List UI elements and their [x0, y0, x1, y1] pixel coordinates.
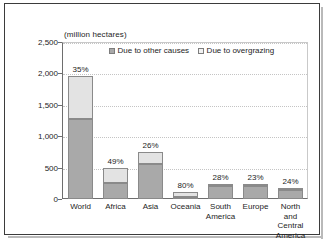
legend-swatch-overgrazing	[198, 48, 204, 54]
bar-segment-overgrazing	[138, 152, 163, 165]
y-tick-mark	[58, 105, 62, 106]
y-axis: 05001,0001,5002,0002,500	[21, 42, 58, 199]
x-tick-label: Europe	[243, 202, 269, 212]
y-tick-mark	[58, 168, 62, 169]
x-tick-label: World	[70, 202, 91, 212]
bar-segment-other-causes	[138, 164, 163, 199]
legend-label: Due to overgrazing	[207, 46, 275, 55]
x-tick-label: South America	[206, 202, 235, 221]
bar-segment-other-causes	[208, 186, 233, 199]
chart-legend: Due to other causesDue to overgrazing	[109, 46, 274, 55]
figure-shadow-right	[321, 7, 323, 239]
y-tick-label: 500	[45, 163, 58, 172]
bar-segment-overgrazing	[278, 188, 303, 190]
legend-swatch-other	[109, 48, 115, 54]
x-tick-label: North and Central America	[276, 202, 305, 240]
figure-frame: (million hectares) 05001,0001,5002,0002,…	[4, 3, 320, 235]
x-axis: WorldAfricaAsiaOceaniaSouth AmericaEurop…	[63, 202, 308, 246]
y-tick-label: 1,000	[38, 132, 58, 141]
legend-entry: Due to other causes	[109, 46, 189, 55]
bar-segment-other-causes	[278, 190, 303, 199]
y-tick-mark	[58, 199, 62, 200]
bar-percent-label: 26%	[142, 141, 158, 150]
bar-asia[interactable]: 26%	[138, 152, 163, 199]
bar-north-and-central-america[interactable]: 24%	[278, 188, 303, 199]
bar-south-america[interactable]: 28%	[208, 184, 233, 199]
bar-oceania[interactable]: 80%	[173, 192, 198, 199]
y-tick-label: 2,500	[38, 38, 58, 47]
y-tick-label: 1,500	[38, 100, 58, 109]
bar-chart: (million hectares) 05001,0001,5002,0002,…	[5, 4, 319, 234]
x-tick-label: Asia	[143, 202, 159, 212]
x-tick-label: Africa	[105, 202, 125, 212]
bar-percent-label: 80%	[177, 181, 193, 190]
bar-percent-label: 35%	[72, 65, 88, 74]
bar-segment-other-causes	[103, 183, 128, 199]
legend-entry: Due to overgrazing	[198, 46, 274, 55]
bar-segment-overgrazing	[103, 168, 128, 183]
bar-percent-label: 24%	[282, 177, 298, 186]
bar-segment-overgrazing	[173, 192, 198, 197]
bar-percent-label: 23%	[247, 173, 263, 182]
y-tick-mark	[58, 73, 62, 74]
y-tick-mark	[58, 42, 62, 43]
bar-percent-label: 49%	[107, 157, 123, 166]
bar-segment-other-causes	[68, 119, 93, 199]
x-tick-label: Oceania	[171, 202, 201, 212]
legend-label: Due to other causes	[118, 46, 190, 55]
y-tick-mark	[58, 136, 62, 137]
bar-segment-overgrazing	[68, 76, 93, 119]
bar-segment-overgrazing	[243, 184, 268, 186]
bar-segment-other-causes	[243, 186, 268, 200]
bar-segment-overgrazing	[208, 184, 233, 187]
bar-europe[interactable]: 23%	[243, 184, 268, 199]
bar-percent-label: 28%	[212, 173, 228, 182]
bars-layer: 35%49%26%80%28%23%24%	[63, 42, 308, 199]
bar-africa[interactable]: 49%	[103, 168, 128, 199]
bar-world[interactable]: 35%	[68, 76, 93, 199]
y-tick-label: 2,000	[38, 69, 58, 78]
y-axis-units-label: (million hectares)	[64, 30, 127, 39]
